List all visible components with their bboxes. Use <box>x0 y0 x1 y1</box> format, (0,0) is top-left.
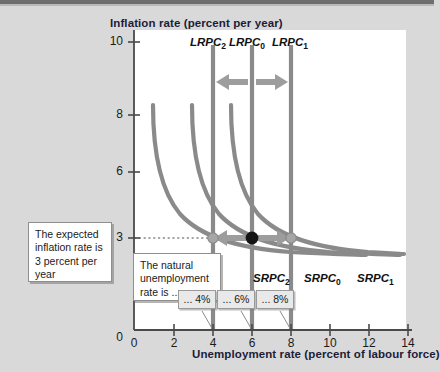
srpc2-label: SRPC2 <box>253 272 290 287</box>
lrpc1-label: LRPC1 <box>272 36 308 51</box>
lrpc1-label-text: LRPC <box>272 36 303 48</box>
pct-box-8: ... 8% <box>256 290 294 309</box>
y-tick-10: 10 <box>103 34 123 48</box>
srpc2-label-text: SRPC <box>253 272 285 284</box>
marker-srpc1-natural-rate <box>286 233 296 243</box>
y-tick-8: 8 <box>103 107 123 121</box>
lrpc1-label-sub: 1 <box>303 41 308 51</box>
marker-srpc2-natural-rate <box>208 233 218 243</box>
x-tick-6: 6 <box>242 336 262 350</box>
x-tick-14: 14 <box>398 336 418 350</box>
x-tick-8: 8 <box>281 336 301 350</box>
srpc0-label-text: SRPC <box>304 272 336 284</box>
srpc0-label: SRPC0 <box>304 272 341 287</box>
y-tick-0: 0 <box>103 330 123 344</box>
lrpc0-label-sub: 0 <box>260 41 265 51</box>
x-tick-0: 0 <box>124 336 144 350</box>
x-tick-2: 2 <box>164 336 184 350</box>
lrpc2-label-sub: 2 <box>221 41 226 51</box>
y-tick-6: 6 <box>103 164 123 178</box>
x-tick-12: 12 <box>359 336 379 350</box>
pct-box-4: ... 4% <box>178 290 216 309</box>
srpc1-label-text: SRPC <box>357 272 389 284</box>
srpc0-label-sub: 0 <box>336 277 341 287</box>
marker-srpc0-natural-rate <box>246 232 259 245</box>
lrpc0-label-text: LRPC <box>229 36 260 48</box>
lrpc0-label: LRPC0 <box>229 36 265 51</box>
expected-inflation-callout: The expected inflation rate is 3 percent… <box>28 222 112 282</box>
lrpc2-label: LRPC2 <box>190 36 226 51</box>
srpc1-label: SRPC1 <box>357 272 394 287</box>
srpc1-label-sub: 1 <box>389 277 394 287</box>
pct-box-6: ... 6% <box>217 290 255 309</box>
x-tick-4: 4 <box>203 336 223 350</box>
x-tick-10: 10 <box>320 336 340 350</box>
srpc2-label-sub: 2 <box>285 277 290 287</box>
lrpc2-label-text: LRPC <box>190 36 221 48</box>
